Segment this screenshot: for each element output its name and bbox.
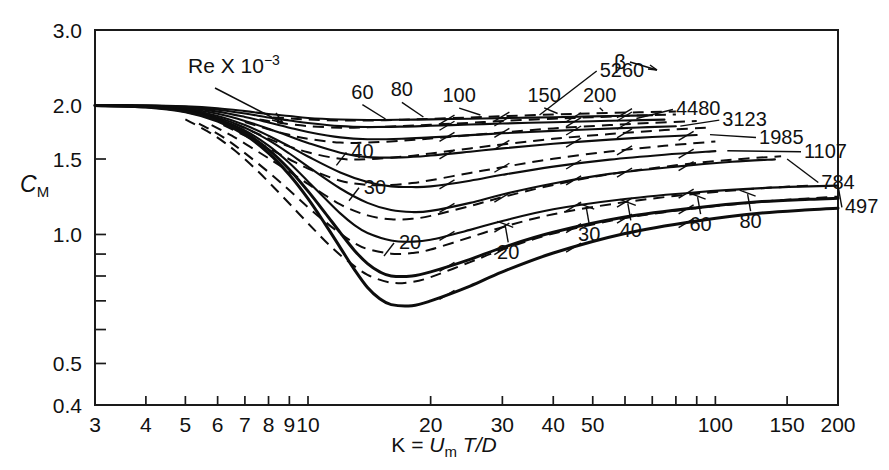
re-label-100: 100 (442, 84, 475, 106)
x-axis-title-u: U (429, 433, 445, 456)
re-label-20: 20 (399, 231, 421, 253)
x-tick-label-10: 10 (296, 413, 319, 436)
x-tick-label-150: 150 (770, 413, 805, 436)
re-label-80-leader (402, 102, 424, 117)
re-label-low-60: 60 (689, 213, 711, 235)
curve-labels: 6080100150200403020203040608052604480312… (351, 59, 878, 263)
x-axis-title-td: T/D (463, 433, 497, 456)
cm-vs-k-chart: 34567891020304050100150200 3.02.01.51.00… (0, 0, 889, 470)
x-axis-title: K = Um T/D (391, 433, 496, 460)
re-label-low-30: 30 (578, 223, 600, 245)
beta-label-1985: 1985 (759, 126, 804, 148)
svg-text:Re X 10−3: Re X 10−3 (188, 52, 280, 77)
x-tick-label-8: 8 (263, 413, 275, 436)
y-tick-label-0.4: 0.4 (53, 394, 83, 417)
re-label-200: 200 (583, 84, 616, 106)
beta-label-4480-leader (636, 110, 673, 119)
y-axis-title: CM (20, 171, 49, 200)
re-legend-label: Re X 10 (188, 54, 264, 77)
re-label-60-leader (362, 105, 385, 119)
beta-label-1107: 1107 (804, 140, 847, 162)
x-tick-label-200: 200 (820, 413, 855, 436)
beta-label-497: 497 (845, 195, 878, 217)
re-label-60: 60 (351, 81, 373, 103)
re-label-low-60-leader (698, 197, 701, 214)
x-tick-label-50: 50 (581, 413, 604, 436)
y-tick-label-2.0: 2.0 (53, 94, 82, 117)
beta-symbol: β (614, 50, 626, 73)
y-axis-title-c: C (20, 171, 37, 197)
y-tick-label-1.0: 1.0 (53, 223, 82, 246)
y-tick-label-3.0: 3.0 (53, 19, 82, 42)
re-label-low-20-leader (505, 225, 508, 242)
x-axis-ticks (95, 396, 838, 405)
y-axis-title-sub: M (37, 183, 50, 200)
figure-container: 34567891020304050100150200 3.02.01.51.00… (0, 0, 889, 470)
re-label-150: 150 (528, 84, 561, 106)
curve-ticklet (439, 231, 454, 240)
re-legend-exponent: −3 (264, 52, 280, 68)
re-label-low-30-leader (586, 207, 589, 224)
re-label-low-40: 40 (620, 219, 642, 241)
x-axis-title-k: K = (391, 433, 429, 456)
beta-label-784: 784 (821, 171, 854, 193)
x-tick-label-9: 9 (284, 413, 296, 436)
re-label-30: 30 (364, 176, 386, 198)
re-label-low-20: 20 (497, 241, 519, 263)
curve-ticklet (439, 290, 454, 299)
x-tick-label-4: 4 (140, 413, 152, 436)
beta-label-3123-leader (680, 120, 719, 126)
x-tick-label-7: 7 (239, 413, 251, 436)
y-axis-ticks (95, 30, 106, 405)
beta-label-1985-leader (710, 135, 756, 138)
beta-label-784-leader (787, 159, 818, 183)
re-label-100-leader (459, 108, 480, 115)
re-label-low-80: 80 (739, 210, 761, 232)
y-tick-label-0.5: 0.5 (53, 352, 82, 375)
x-tick-label-6: 6 (212, 413, 224, 436)
y-tick-label-1.5: 1.5 (53, 148, 82, 171)
beta-label-1107-leader (727, 151, 801, 152)
x-tick-label-3: 3 (89, 413, 101, 436)
x-tick-label-5: 5 (180, 413, 192, 436)
x-tick-label-100: 100 (698, 413, 733, 436)
curve-ticklet (617, 146, 632, 155)
re-label-200-leader (600, 108, 603, 111)
x-axis-title-m: m (444, 443, 457, 460)
y-axis-tick-labels: 3.02.01.51.00.50.4 (53, 19, 83, 417)
re-label-80: 80 (391, 78, 413, 100)
x-tick-label-40: 40 (542, 413, 565, 436)
re-label-40: 40 (351, 140, 373, 162)
beta-label-4480: 4480 (676, 97, 721, 119)
